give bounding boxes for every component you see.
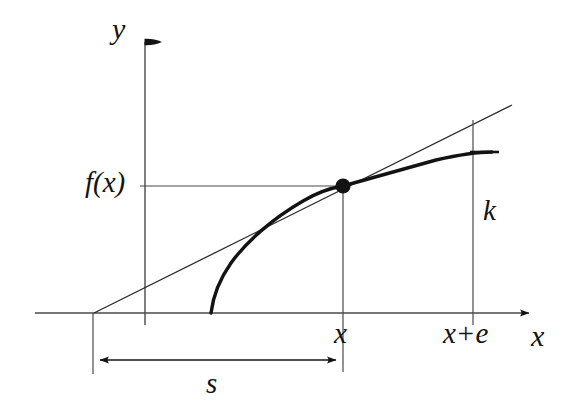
y-axis-label: y xyxy=(112,14,125,44)
rise-label: k xyxy=(483,196,496,225)
tangent-line xyxy=(94,105,512,313)
figure-root: y x f(x) x x+e k s xyxy=(0,0,575,417)
run-label: s xyxy=(206,369,217,398)
x-axis-label: x xyxy=(531,321,544,351)
x-tick-label: x xyxy=(334,319,347,348)
function-curve xyxy=(211,152,492,313)
x-plus-e-tick-label: x+e xyxy=(443,319,488,348)
tangent-point xyxy=(335,178,350,193)
function-value-label: f(x) xyxy=(85,168,125,197)
